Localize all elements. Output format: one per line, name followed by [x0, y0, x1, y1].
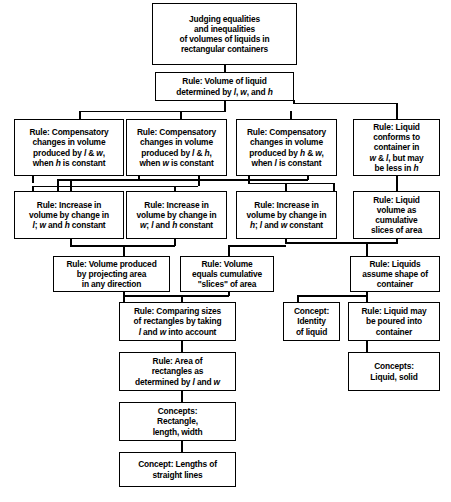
node-rule-volume-determined-label: Rule: Volume of liquiddetermined by l, w… — [176, 76, 272, 96]
connector-area-to-concepts-rect — [181, 391, 183, 402]
connector-bus-compensatory — [79, 111, 226, 113]
node-rule-volume-equals-slices[interactable]: Rule: Volumeequals cumulative"slices" of… — [180, 256, 274, 292]
node-concepts-rectangle[interactable]: Concepts:Rectangle,length, width — [119, 402, 236, 441]
connector-concepts-rect-to-lengths — [181, 441, 183, 452]
diagram-canvas: Judging equalitiesand inequalitiesof vol… — [0, 0, 451, 502]
node-rule-increase-l-label: Rule: Increase involume by change inl; w… — [29, 200, 109, 231]
node-rule-comp-lw-label: Rule: Compensatorychanges in volumeprodu… — [29, 127, 108, 168]
connector-down-increase-l — [70, 179, 72, 191]
node-rule-comp-hw-label: Rule: Compensatorychanges in volumeprodu… — [247, 127, 326, 168]
node-rule-increase-w-label: Rule: Increase involume by change inw; l… — [137, 200, 217, 231]
node-rule-area-rectangles-label: Rule: Area ofrectangles asdetermined by … — [135, 356, 220, 387]
connector-bus-to-comparing — [123, 295, 229, 297]
connector-bus-liquid-conforms — [293, 103, 398, 105]
connector-comp-lw-stub — [32, 175, 34, 183]
node-rule-liquid-conforms[interactable]: Rule: Liquidconforms tocontainer inw & l… — [353, 119, 440, 176]
node-concepts-liquid-solid-label: Concepts:Liquid, solid — [370, 361, 417, 381]
connector-comparing-to-area — [181, 341, 183, 352]
connector-down-projecting — [123, 245, 125, 256]
connector-bus-to-equals-slices — [228, 245, 286, 247]
connector-volume-rule-stub — [224, 100, 226, 111]
node-rule-volume-projecting-label: Rule: Volume producedby projecting areai… — [66, 259, 156, 290]
node-goal[interactable]: Judging equalitiesand inequalitiesof vol… — [152, 3, 297, 65]
node-rule-comp-lh-label: Rule: Compensatorychanges in volumeprodu… — [137, 127, 216, 168]
connector-bus-identity-poured — [297, 295, 367, 297]
node-concept-lengths[interactable]: Concept: Lengths ofstraight lines — [119, 452, 236, 487]
node-rule-liquids-assume-shape-label: Rule: Liquidsassume shape ofcontainer — [362, 259, 428, 290]
node-concepts-liquid-solid[interactable]: Concepts:Liquid, solid — [348, 352, 440, 391]
node-rule-volume-determined[interactable]: Rule: Volume of liquiddetermined by l, w… — [155, 72, 294, 101]
node-concepts-rectangle-label: Concepts:Rectangle,length, width — [153, 406, 203, 437]
node-concept-lengths-label: Concept: Lengths ofstraight lines — [138, 459, 217, 479]
node-rule-liquid-volume-slices[interactable]: Rule: Liquidvolume ascumulativeslices of… — [353, 191, 440, 239]
node-rule-liquid-conforms-label: Rule: Liquidconforms tocontainer inw & l… — [369, 122, 423, 173]
node-rule-volume-projecting[interactable]: Rule: Volume producedby projecting areai… — [53, 256, 170, 292]
node-rule-increase-h[interactable]: Rule: Increase involume by change inh; l… — [236, 191, 337, 239]
connector-bus-to-assume-shape — [285, 242, 398, 244]
node-rule-comp-lw[interactable]: Rule: Compensatorychanges in volumeprodu… — [14, 119, 124, 176]
node-rule-liquid-poured[interactable]: Rule: Liquid maybe poured intocontainer — [348, 302, 440, 341]
node-rule-increase-l[interactable]: Rule: Increase involume by change inl; w… — [14, 191, 124, 239]
connector-mesh-bus-c — [248, 183, 334, 185]
node-rule-comp-hw[interactable]: Rule: Compensatorychanges in volumeprodu… — [236, 119, 337, 176]
node-rule-comp-lh[interactable]: Rule: Compensatorychanges in volumeprodu… — [126, 119, 227, 176]
node-rule-liquid-poured-label: Rule: Liquid maybe poured intocontainer — [361, 306, 426, 337]
connector-down-assume-shape — [366, 242, 368, 256]
node-rule-liquids-assume-shape[interactable]: Rule: Liquidsassume shape ofcontainer — [350, 256, 440, 292]
node-concept-identity-liquid[interactable]: Concept:Identityof liquid — [283, 302, 340, 341]
node-rule-increase-h-label: Rule: Increase involume by change inh; l… — [247, 200, 327, 231]
connector-mesh-bus-a — [57, 179, 308, 181]
node-rule-comparing-sizes[interactable]: Rule: Comparing sizesof rectangles by ta… — [119, 302, 236, 341]
connector-conforms-to-slices — [396, 175, 398, 191]
node-rule-increase-w[interactable]: Rule: Increase involume by change inw; l… — [126, 191, 227, 239]
node-rule-liquid-volume-slices-label: Rule: Liquidvolume ascumulativeslices of… — [371, 195, 422, 236]
node-rule-comparing-sizes-label: Rule: Comparing sizesof rectangles by ta… — [134, 306, 222, 337]
connector-down-equals-slices — [228, 245, 230, 256]
connector-down-liquid-conforms — [396, 103, 398, 120]
node-rule-volume-equals-slices-label: Rule: Volumeequals cumulative"slices" of… — [192, 259, 262, 290]
node-goal-label: Judging equalitiesand inequalitiesof vol… — [180, 14, 270, 55]
node-rule-area-rectangles[interactable]: Rule: Area ofrectangles asdetermined by … — [119, 352, 236, 391]
connector-poured-to-concepts-ls — [366, 341, 368, 352]
node-concept-identity-liquid-label: Concept:Identityof liquid — [294, 306, 329, 337]
